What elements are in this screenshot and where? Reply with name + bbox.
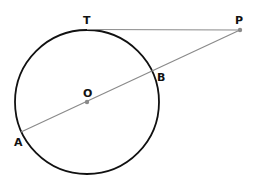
geometry-diagram: T P O B A bbox=[0, 0, 258, 183]
label-T: T bbox=[83, 14, 91, 27]
label-P: P bbox=[235, 14, 243, 27]
label-A: A bbox=[14, 136, 23, 149]
tangent-line-TP bbox=[87, 30, 240, 31]
label-B: B bbox=[157, 71, 165, 84]
label-O: O bbox=[83, 87, 92, 100]
point-O-dot bbox=[85, 100, 89, 104]
point-P-dot bbox=[238, 28, 242, 32]
